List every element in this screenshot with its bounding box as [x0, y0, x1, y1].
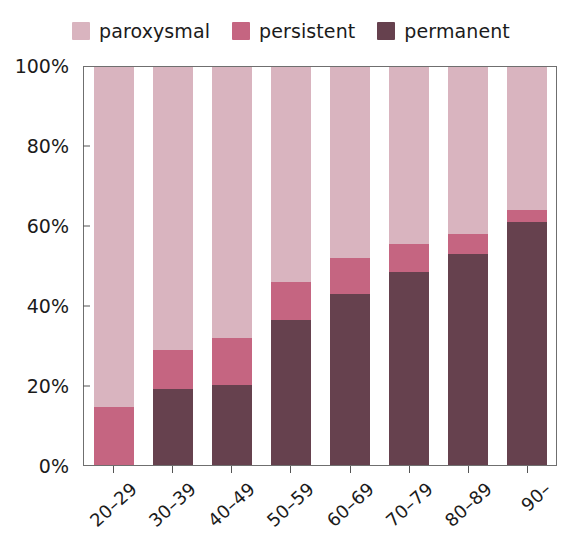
x-axis-tick-mark: [468, 466, 469, 473]
x-axis-tick-label: 90–: [517, 478, 555, 515]
legend-item-persistent: persistent: [232, 20, 355, 42]
x-axis-tick-label: 40–49: [204, 478, 260, 531]
legend-label-paroxysmal: paroxysmal: [99, 20, 210, 42]
bar-20-29[interactable]: [94, 67, 134, 465]
x-axis-tick-label: 30–39: [144, 478, 200, 531]
bar-segment-paroxysmal: [153, 67, 193, 350]
legend-item-paroxysmal: paroxysmal: [72, 20, 210, 42]
x-axis-tick-mark: [527, 466, 528, 473]
bar-segment-persistent: [389, 244, 429, 272]
bar-segment-permanent: [153, 389, 193, 465]
x-axis-tick-mark: [113, 466, 114, 473]
legend-label-permanent: permanent: [404, 20, 510, 42]
bar-segment-paroxysmal: [271, 67, 311, 282]
y-axis-tick-label: 40%: [27, 295, 69, 317]
bar-segment-paroxysmal: [212, 67, 252, 338]
x-axis-tick-mark: [290, 466, 291, 473]
y-axis-tick-mark: [83, 386, 90, 387]
x-axis-tick-label: 20–29: [85, 478, 141, 531]
bar-segment-persistent: [212, 338, 252, 386]
bar-segment-persistent: [271, 282, 311, 320]
x-axis-tick-label: 60–69: [322, 478, 378, 531]
y-axis-tick-label: 100%: [15, 55, 69, 77]
chart-legend: paroxysmal persistent permanent: [0, 14, 582, 48]
x-axis-tick-mark: [231, 466, 232, 473]
bar-segment-permanent: [271, 320, 311, 465]
bar-segment-persistent: [448, 234, 488, 254]
legend-swatch-paroxysmal-icon: [72, 22, 90, 40]
bar-segment-persistent: [94, 407, 134, 465]
bar-segment-permanent: [212, 385, 252, 465]
x-axis-tick-label: 70–79: [381, 478, 437, 531]
bars-container: [84, 67, 556, 465]
bar-60-69[interactable]: [330, 67, 370, 465]
bar-segment-persistent: [507, 210, 547, 222]
bar-segment-persistent: [153, 350, 193, 390]
bar-segment-persistent: [330, 258, 370, 294]
legend-swatch-persistent-icon: [232, 22, 250, 40]
legend-label-persistent: persistent: [259, 20, 355, 42]
bar-segment-paroxysmal: [330, 67, 370, 258]
bar-segment-permanent: [389, 272, 429, 465]
y-axis-tick-label: 80%: [27, 135, 69, 157]
bar-segment-paroxysmal: [507, 67, 547, 210]
bar-80-89[interactable]: [448, 67, 488, 465]
x-axis-tick-label: 50–59: [263, 478, 319, 531]
bar-segment-permanent: [330, 294, 370, 465]
bar-segment-permanent: [507, 222, 547, 465]
bar-segment-paroxysmal: [389, 67, 429, 244]
bar-30-39[interactable]: [153, 67, 193, 465]
legend-item-permanent: permanent: [377, 20, 510, 42]
bar-segment-permanent: [448, 254, 488, 465]
x-axis: 20–2930–3940–4950–5960–6970–7980–8990–: [83, 466, 557, 541]
y-axis-tick-mark: [83, 306, 90, 307]
x-axis-tick-label: 80–89: [441, 478, 497, 531]
x-axis-tick-mark: [172, 466, 173, 473]
bar-segment-paroxysmal: [94, 67, 134, 407]
y-axis-tick-label: 60%: [27, 215, 69, 237]
y-axis-tick-mark: [83, 146, 90, 147]
bar-40-49[interactable]: [212, 67, 252, 465]
y-axis-tick-label: 20%: [27, 375, 69, 397]
x-axis-tick-mark: [409, 466, 410, 473]
y-axis: 0%20%40%60%80%100%: [0, 66, 77, 466]
x-axis-tick-mark: [350, 466, 351, 473]
y-axis-tick-mark: [83, 226, 90, 227]
legend-swatch-permanent-icon: [377, 22, 395, 40]
bar-segment-paroxysmal: [448, 67, 488, 234]
bar-90[interactable]: [507, 67, 547, 465]
y-axis-tick-label: 0%: [39, 455, 69, 477]
bar-50-59[interactable]: [271, 67, 311, 465]
plot-area: [83, 66, 557, 466]
bar-70-79[interactable]: [389, 67, 429, 465]
